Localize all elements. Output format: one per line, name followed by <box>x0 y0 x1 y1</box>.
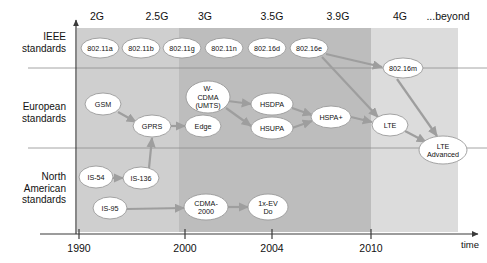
node-label: HSUPA <box>260 124 284 133</box>
node-label: HSDPA <box>260 100 284 109</box>
time-axis-label: time <box>461 239 479 250</box>
node-label: 802.11g <box>169 44 194 53</box>
year-label-2004: 2004 <box>260 242 284 254</box>
generation-label-...beyond: ...beyond <box>426 10 469 22</box>
row-label-european: Europeanstandards <box>22 101 66 124</box>
node-nis136[interactable]: IS-136 <box>123 167 159 189</box>
node-ngsm[interactable]: GSM <box>85 93 121 115</box>
year-label-2010: 2010 <box>359 242 383 254</box>
node-n80216d[interactable]: 802.16d <box>248 38 286 58</box>
node-label: LTE <box>384 121 397 130</box>
node-label: IS-136 <box>130 174 151 183</box>
node-nwcdma[interactable]: W-CDMA(UMTS) <box>186 81 230 113</box>
generation-label-4G: 4G <box>393 10 407 22</box>
node-n80211n[interactable]: 802.11n <box>205 38 243 58</box>
node-n80216m[interactable]: 802.16m <box>383 58 423 78</box>
node-label: GSM <box>95 100 111 109</box>
standards-evolution-diagram: 802.11a802.11b802.11g802.11n802.16d802.1… <box>0 0 487 263</box>
generation-labels: 2G2.5G3G3.5G3.9G4G...beyond <box>90 10 470 22</box>
generation-label-2G: 2G <box>90 10 104 22</box>
node-nis54[interactable]: IS-54 <box>79 166 113 188</box>
node-nhsdpa[interactable]: HSDPA <box>251 93 293 115</box>
row-label-ieee: IEEEstandards <box>22 31 66 54</box>
node-label: 802.11a <box>87 44 112 53</box>
node-n1xevdo[interactable]: 1x-EVDo <box>248 194 288 220</box>
node-nhsupa[interactable]: HSUPA <box>251 117 293 139</box>
year-label-1990: 1990 <box>67 242 91 254</box>
node-ncdma2000[interactable]: CDMA-2000 <box>184 194 228 220</box>
node-n80211a[interactable]: 802.11a <box>81 38 119 58</box>
node-label: 802.16e <box>296 44 322 53</box>
node-n80211b[interactable]: 802.11b <box>122 38 160 58</box>
generation-label-2.5G: 2.5G <box>146 10 169 22</box>
node-label: HSPA+ <box>319 113 342 122</box>
node-n80211g[interactable]: 802.11g <box>163 38 201 58</box>
row-label-namerica: NorthAmericanstandards <box>22 171 66 205</box>
node-n80216e[interactable]: 802.16e <box>290 38 328 58</box>
year-label-2000: 2000 <box>173 242 197 254</box>
node-label: GPRS <box>142 122 163 131</box>
node-label: Edge <box>195 122 212 131</box>
node-nedge[interactable]: Edge <box>185 115 221 137</box>
node-nlteadv[interactable]: LTEAdvanced <box>419 136 467 164</box>
node-ngprs[interactable]: GPRS <box>133 115 171 137</box>
generation-label-3.5G: 3.5G <box>261 10 284 22</box>
node-nlte[interactable]: LTE <box>372 114 408 136</box>
node-label: 802.16m <box>389 64 417 73</box>
node-label: 802.16d <box>254 44 280 53</box>
generation-label-3.9G: 3.9G <box>327 10 350 22</box>
generation-label-3G: 3G <box>198 10 212 22</box>
node-nhspaplus[interactable]: HSPA+ <box>311 106 351 128</box>
diagram-canvas: 802.11a802.11b802.11g802.11n802.16d802.1… <box>0 0 487 263</box>
node-label: 802.11b <box>128 44 153 53</box>
row-labels: IEEEstandardsEuropeanstandardsNorthAmeri… <box>22 31 66 205</box>
year-labels: 1990200020042010 <box>67 242 383 254</box>
node-label: IS-54 <box>87 173 104 182</box>
node-label: 802.11n <box>211 44 236 53</box>
node-nis95[interactable]: IS-95 <box>93 197 127 219</box>
node-label: IS-95 <box>101 204 118 213</box>
arrow-nis95-to-ncdma2000 <box>127 208 184 209</box>
